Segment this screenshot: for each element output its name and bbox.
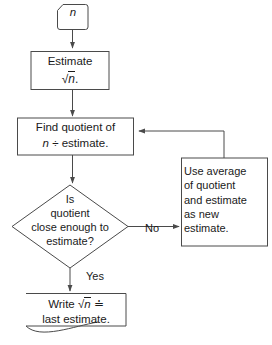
- flowchart-diagram: n Estimate √n. Find quotient of n ÷ esti…: [0, 0, 272, 345]
- write-result-document-shape: [26, 294, 126, 333]
- start-terminator-shape: [58, 5, 89, 30]
- edge-average-feedback-to-quotient: [139, 131, 224, 158]
- edge-label-no: No: [141, 222, 163, 234]
- flowchart-canvas: [0, 0, 272, 345]
- edge-label-yes: Yes: [82, 270, 108, 282]
- find-quotient-box-shape: [18, 118, 134, 155]
- use-average-box-shape: [182, 158, 268, 246]
- decision-diamond-shape: [12, 185, 128, 268]
- estimate-box-shape: [31, 52, 109, 90]
